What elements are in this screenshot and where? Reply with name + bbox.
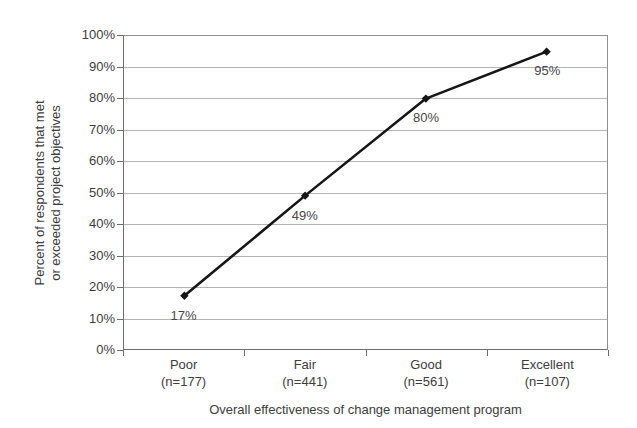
data-line <box>184 52 546 296</box>
data-point-label: 17% <box>162 308 206 323</box>
data-point-label: 49% <box>283 208 327 223</box>
y-tick-mark <box>117 193 123 194</box>
x-axis-title: Overall effectiveness of change manageme… <box>123 402 608 417</box>
line-chart: Percent of respondents that met or excee… <box>0 0 637 428</box>
y-tick-label: 30% <box>53 248 115 264</box>
y-tick-mark <box>117 256 123 257</box>
x-category-label: Good(n=561) <box>365 356 487 390</box>
x-category-label: Excellent(n=107) <box>486 356 608 390</box>
y-tick-mark <box>117 98 123 99</box>
y-tick-label: 70% <box>53 122 115 138</box>
data-point-marker <box>542 47 550 55</box>
category-count: (n=561) <box>365 373 487 390</box>
y-tick-mark <box>117 224 123 225</box>
y-tick-mark <box>117 67 123 68</box>
category-name: Fair <box>244 356 366 373</box>
category-count: (n=441) <box>244 373 366 390</box>
y-tick-mark <box>117 161 123 162</box>
data-point-label: 95% <box>525 63 569 78</box>
y-axis-title-line1: Percent of respondents that met <box>32 83 48 303</box>
category-name: Excellent <box>486 356 608 373</box>
x-category-label: Fair(n=441) <box>244 356 366 390</box>
y-tick-label: 40% <box>53 216 115 232</box>
y-tick-mark <box>117 130 123 131</box>
category-count: (n=107) <box>486 373 608 390</box>
y-tick-label: 50% <box>53 185 115 201</box>
y-tick-mark <box>117 287 123 288</box>
y-tick-label: 90% <box>53 59 115 75</box>
data-point-label: 80% <box>404 110 448 125</box>
data-series <box>124 36 607 349</box>
category-name: Poor <box>123 356 245 373</box>
y-tick-label: 20% <box>53 279 115 295</box>
y-tick-label: 80% <box>53 90 115 106</box>
category-count: (n=177) <box>123 373 245 390</box>
y-tick-label: 100% <box>53 27 115 43</box>
y-tick-label: 10% <box>53 311 115 327</box>
category-name: Good <box>365 356 487 373</box>
plot-area <box>123 35 608 350</box>
y-tick-label: 60% <box>53 153 115 169</box>
y-tick-mark <box>117 319 123 320</box>
y-tick-mark <box>117 35 123 36</box>
x-category-label: Poor(n=177) <box>123 356 245 390</box>
y-tick-label: 0% <box>53 342 115 358</box>
